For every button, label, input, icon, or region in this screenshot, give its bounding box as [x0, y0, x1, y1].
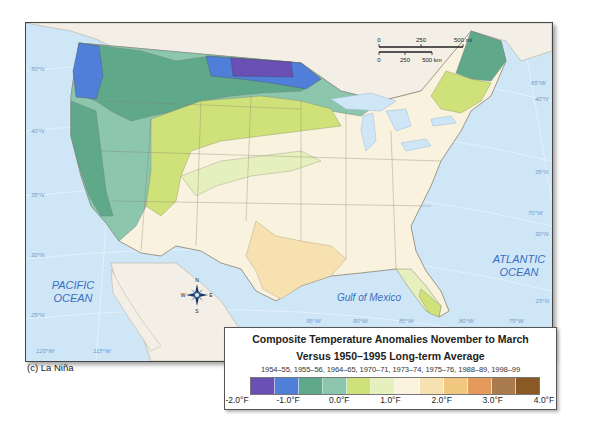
lat-label: 40°N — [31, 128, 45, 134]
pacific-ocean-label: PACIFIC — [52, 279, 95, 291]
legend-swatch — [516, 378, 539, 394]
legend-title-line2: Versus 1950–1995 Long-term Average — [225, 350, 556, 362]
legend-swatch — [371, 378, 395, 394]
lon-label-right: 70°W — [528, 210, 544, 216]
legend-swatch — [275, 378, 299, 394]
svg-text:N: N — [195, 277, 199, 283]
legend-swatch — [444, 378, 468, 394]
us-temperature-anomaly-map: PACIFIC OCEAN ATLANTIC OCEAN Gulf of Mex… — [26, 23, 552, 361]
gulf-of-mexico-label: Gulf of Mexico — [337, 292, 401, 303]
legend-years: 1954–55, 1955–56, 1964–65, 1970–71, 1973… — [225, 365, 556, 374]
legend-tick-label: -1.0°F — [277, 395, 300, 405]
lon-label: 90°W — [353, 318, 369, 324]
region-pacific-northwest-cold — [73, 43, 103, 99]
color-ramp — [250, 377, 540, 395]
pacific-ocean-label-2: OCEAN — [53, 292, 92, 304]
lon-label: 95°W — [306, 318, 322, 324]
atlantic-ocean-label-2: OCEAN — [499, 266, 538, 278]
legend-tick-label: 3.0°F — [483, 395, 503, 405]
lon-label: 75°W — [509, 318, 525, 324]
legend-title-line1: Composite Temperature Anomalies November… — [225, 333, 556, 345]
legend-swatch — [347, 378, 371, 394]
lat-label-right: 40°N — [535, 96, 549, 102]
legend: Composite Temperature Anomalies November… — [224, 327, 557, 410]
legend-swatch — [323, 378, 347, 394]
legend-tick-label: 1.0°F — [380, 395, 400, 405]
svg-text:W: W — [181, 292, 186, 298]
legend-tick-label: 2.0°F — [431, 395, 451, 405]
legend-swatch — [251, 378, 275, 394]
legend-swatch — [420, 378, 444, 394]
lat-label: 25°N — [30, 312, 45, 318]
lat-label-right: 35°N — [535, 169, 549, 175]
svg-text:500 mi: 500 mi — [454, 37, 472, 43]
legend-tick-label: -2.0°F — [225, 395, 248, 405]
legend-swatch — [468, 378, 492, 394]
lat-label-right: 30°N — [535, 231, 549, 237]
svg-text:500 km: 500 km — [422, 57, 442, 63]
lat-label: 50°N — [31, 66, 45, 72]
atlantic-ocean-label: ATLANTIC — [492, 253, 545, 265]
map-frame: PACIFIC OCEAN ATLANTIC OCEAN Gulf of Mex… — [25, 22, 553, 362]
svg-text:250: 250 — [416, 37, 427, 43]
lon-label: 120°W — [36, 348, 55, 354]
legend-swatch — [395, 378, 419, 394]
legend-swatch — [299, 378, 323, 394]
legend-tick-label: 4.0°F — [534, 395, 554, 405]
lon-label: 85°W — [399, 318, 415, 324]
lat-label: 30°N — [31, 252, 45, 258]
svg-text:250: 250 — [400, 57, 411, 63]
lat-label-right: 25°N — [535, 298, 550, 304]
lat-label: 35°N — [31, 192, 45, 198]
figure-caption: (c) La Niña — [27, 362, 73, 373]
legend-tick-label: 0.0°F — [329, 395, 349, 405]
legend-ticks: -2.0°F-1.0°F0.0°F1.0°F2.0°F3.0°F4.0°F — [225, 395, 556, 407]
lon-label-right: 65°W — [531, 80, 547, 86]
legend-swatch — [492, 378, 516, 394]
lon-label: 115°W — [93, 348, 112, 354]
lon-label: 80°W — [459, 318, 475, 324]
